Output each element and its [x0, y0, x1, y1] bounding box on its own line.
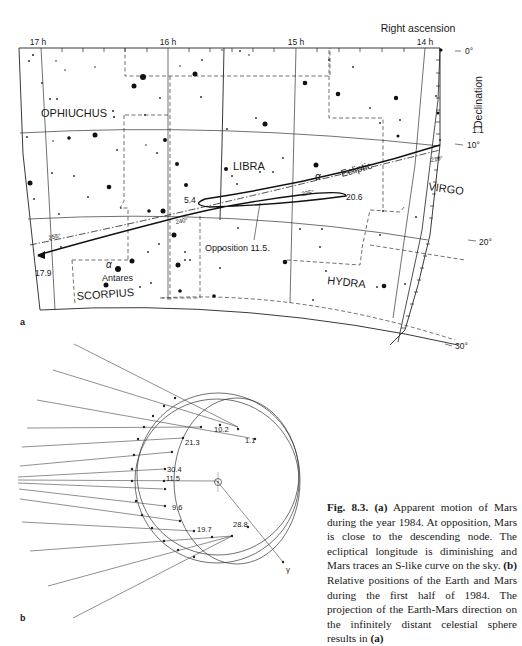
- figure-caption: Fig. 8.3. (a) Apparent motion of Mars du…: [327, 500, 517, 646]
- dec-tick: 30°: [455, 341, 468, 351]
- caption-text: Relative positions of the Earth and Mars…: [327, 574, 517, 644]
- dec-tick: 10°: [467, 140, 480, 150]
- ra-tick: 16 h: [160, 37, 177, 47]
- panel-b-label: b: [20, 613, 26, 623]
- star-label-alpha-libra: α: [315, 171, 321, 182]
- ra-axis-title: Right ascension: [381, 22, 456, 34]
- constellation-ophiuchus: OPHIUCHUS: [41, 107, 107, 119]
- ecliptic-longitude: 210°: [430, 155, 444, 163]
- dec-tick: 0°: [465, 46, 473, 56]
- constellation-libra: LIBRA: [233, 160, 265, 172]
- orbit-date-label: 10.2: [214, 425, 229, 434]
- star-label-alpha-scorpius: α: [106, 259, 112, 270]
- caption-tag: (a): [374, 501, 387, 513]
- ra-tick: 15 h: [288, 37, 305, 47]
- orbit-date-label: 28.8: [233, 520, 248, 529]
- constellation-hydra: HYDRA: [327, 274, 367, 290]
- ra-tick: 17 h: [30, 37, 47, 47]
- orbit-date-label: 19.7: [197, 525, 212, 534]
- dec-axis-title: Declination: [472, 76, 484, 128]
- orbit-date-label: 1.1: [245, 436, 255, 445]
- caption-tag: (a): [371, 632, 384, 644]
- dec-tick: 20°: [479, 237, 492, 247]
- caption-fig-number: Fig. 8.3.: [327, 501, 368, 513]
- vernal-equinox-label: γ: [286, 565, 290, 574]
- star-label-antares: Antares: [102, 273, 134, 283]
- constellation-scorpius: SCORPIUS: [76, 286, 134, 302]
- ra-tick: 14 h: [417, 37, 434, 47]
- orbit-date-label: 21.3: [185, 438, 200, 447]
- date-label-5-4: 5.4: [184, 195, 196, 205]
- opposition-label: Opposition 11.5.: [205, 243, 270, 253]
- ecliptic-longitude: 240°: [175, 217, 189, 225]
- constellation-virgo: VIRGO: [428, 180, 465, 197]
- caption-tag: (b): [503, 559, 517, 571]
- date-label-20-6: 20.6: [346, 192, 363, 202]
- orbit-date-label: 9.6: [172, 503, 182, 512]
- ecliptic-longitude: 225°: [301, 189, 315, 197]
- orbit-date-label: 11.5: [166, 474, 180, 483]
- panel-a-label: a: [20, 317, 26, 327]
- orbit-date-label: 30.4: [167, 465, 182, 474]
- date-label-end: 17.9: [35, 268, 52, 278]
- ecliptic-longitude: 255°: [48, 232, 62, 241]
- date-label-start: 1.1: [472, 125, 484, 135]
- ecliptic-label: Ecliptic: [340, 160, 373, 179]
